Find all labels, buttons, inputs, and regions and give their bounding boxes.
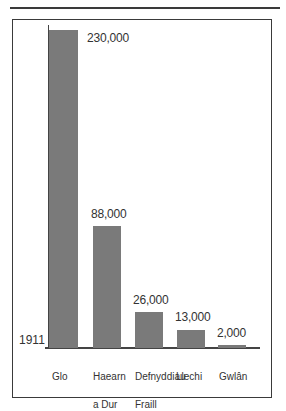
bar-haearn-a-dur	[93, 226, 121, 348]
category-label-haearn-a-dur: Haearn a Dur	[93, 356, 126, 411]
bar-defnyddiau-fraill	[135, 312, 163, 348]
category-label-gwlan: Gwlân	[219, 356, 247, 384]
value-label-llechi: 13,000	[175, 310, 211, 324]
bar-gwlan	[218, 345, 246, 348]
bar-glo	[49, 30, 78, 348]
category-label-glo: Glo	[52, 356, 68, 384]
value-label-haearn-a-dur: 88,000	[91, 207, 127, 221]
top-rule	[10, 7, 280, 9]
value-label-defnyddiau-fraill: 26,000	[133, 293, 169, 307]
value-label-glo: 230,000	[87, 31, 129, 45]
bar-llechi	[177, 330, 205, 348]
category-label-llechi: Llechi	[176, 356, 202, 384]
value-label-gwlan: 2,000	[217, 326, 246, 340]
year-label: 1911	[19, 333, 45, 347]
